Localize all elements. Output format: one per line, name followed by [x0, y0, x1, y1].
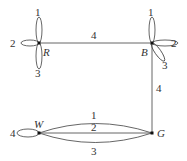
edge-label-R-3: 3: [35, 67, 41, 79]
vertex-label-W: W: [34, 118, 44, 130]
edge-R-loop-2: [21, 40, 39, 46]
edge-label-W-G-1: 1: [91, 109, 97, 121]
edge-W-G-3: [39, 133, 152, 143]
edge-label-R-1: 1: [35, 6, 41, 18]
edge-B-loop-1: [149, 17, 155, 43]
edge-label-R-B: 4: [91, 29, 97, 41]
vertex-label-G: G: [157, 127, 165, 139]
edge-label-W-G-2: 2: [91, 121, 97, 133]
edge-label-B-3: 3: [162, 59, 168, 71]
edge-label-B-2: 2: [171, 37, 177, 49]
edge-W-loop-4: [17, 129, 39, 137]
graph-diagram: R B G W 1 2 3 4 1 2 3 4 1 2 3 4: [0, 0, 187, 161]
vertex-label-R: R: [42, 46, 50, 58]
edge-label-W-4: 4: [10, 127, 16, 139]
edge-label-R-2: 2: [10, 37, 16, 49]
edge-label-B-1: 1: [148, 6, 154, 18]
vertex-label-B: B: [141, 46, 148, 58]
vertex-W: [38, 132, 41, 135]
edge-R-loop-1: [36, 17, 42, 43]
vertex-B: [151, 42, 154, 45]
edge-label-B-G: 4: [156, 82, 162, 94]
vertex-R: [38, 42, 41, 45]
vertex-G: [151, 132, 154, 135]
edge-label-W-G-3: 3: [91, 145, 97, 157]
edge-R-loop-3: [36, 43, 42, 69]
